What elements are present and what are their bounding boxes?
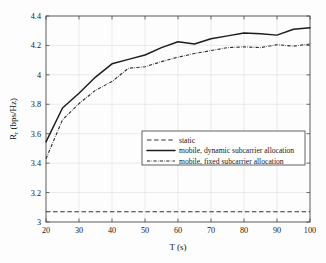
y-tick-label: 3.8	[31, 100, 41, 109]
y-tick-label: 4	[37, 71, 41, 80]
x-tick-label: 30	[75, 226, 83, 235]
svg-text:Rr (bps/Hz): Rr (bps/Hz)	[8, 98, 19, 140]
y-tick-label: 3.2	[31, 189, 41, 198]
x-axis-tick-labels: 2030405060708090100	[42, 226, 316, 235]
y-axis-title-units: (bps/Hz)	[8, 98, 18, 132]
legend-label: mobile, fixed subcarrier allocation	[179, 157, 284, 166]
y-tick-label: 3.4	[31, 159, 41, 168]
x-tick-label: 100	[304, 226, 316, 235]
chart-figure: 2030405060708090100 33.23.43.63.844.24.4…	[0, 0, 326, 263]
chart-canvas: 2030405060708090100 33.23.43.63.844.24.4…	[0, 0, 326, 263]
x-tick-label: 60	[174, 226, 182, 235]
x-tick-label: 70	[207, 226, 215, 235]
y-tick-label: 3	[37, 218, 41, 227]
chart-legend: staticmobile, dynamic subcarrier allocat…	[142, 131, 305, 166]
y-tick-label: 3.6	[31, 130, 41, 139]
x-axis-title: T (s)	[169, 242, 186, 252]
legend-label: mobile, dynamic subcarrier allocation	[179, 146, 294, 155]
y-axis-title: Rr (bps/Hz)	[8, 98, 19, 140]
x-tick-label: 90	[273, 226, 281, 235]
gridlines-group	[46, 16, 310, 222]
x-tick-label: 50	[141, 226, 149, 235]
x-tick-label: 40	[108, 226, 116, 235]
x-tick-label: 80	[240, 226, 248, 235]
y-tick-label: 4.2	[31, 41, 41, 50]
x-tick-label: 20	[42, 226, 50, 235]
legend-label: static	[179, 136, 196, 145]
y-axis-tick-labels: 33.23.43.63.844.24.4	[31, 12, 41, 227]
y-tick-label: 4.4	[31, 12, 41, 21]
